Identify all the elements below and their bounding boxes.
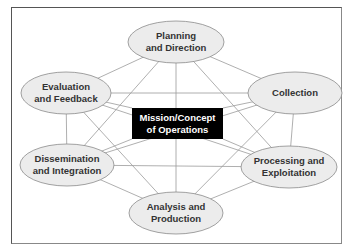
node-analysis-line2: Production [147,213,206,225]
node-dissemination: Dissemination and Integration [33,153,102,177]
center-mission-box: Mission/Concept of Operations [132,108,223,139]
node-planning-line2: and Direction [146,42,207,54]
node-processing-line1: Processing and [254,155,325,167]
node-processing: Processing and Exploitation [254,155,325,179]
center-label-line1: Mission/Concept [139,112,215,124]
node-analysis-line1: Analysis and [147,201,206,213]
node-dissemination-line1: Dissemination [33,153,102,165]
node-evaluation-line1: Evaluation [34,81,97,93]
node-processing-line2: Exploitation [254,167,325,179]
node-planning: Planning and Direction [146,30,207,54]
node-collection: Collection [272,87,318,99]
node-evaluation: Evaluation and Feedback [34,81,97,105]
center-label-line2: of Operations [139,124,215,136]
node-analysis: Analysis and Production [147,201,206,225]
node-evaluation-line2: and Feedback [34,93,97,105]
node-planning-line1: Planning [146,30,207,42]
node-dissemination-line2: and Integration [33,165,102,177]
node-collection-line1: Collection [272,87,318,99]
